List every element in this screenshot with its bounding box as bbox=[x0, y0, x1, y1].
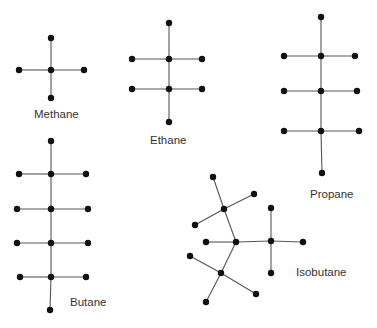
bond bbox=[224, 209, 236, 242]
carbon-atom bbox=[218, 270, 224, 276]
hydrogen-atom bbox=[356, 128, 362, 134]
bond bbox=[321, 131, 322, 173]
hydrogen-atom bbox=[16, 171, 22, 177]
hydrogen-atom bbox=[319, 170, 325, 176]
hydrogen-atom bbox=[17, 274, 23, 280]
hydrogen-atom bbox=[354, 88, 360, 94]
hydrogen-atom bbox=[85, 206, 91, 212]
hydrogen-atom bbox=[166, 119, 172, 125]
hydrogen-atom bbox=[129, 86, 135, 92]
bond bbox=[271, 241, 303, 242]
carbon-atom bbox=[221, 206, 227, 212]
hydrogen-atom bbox=[281, 128, 287, 134]
hydrogen-atom bbox=[187, 253, 193, 259]
hydrogen-atom bbox=[81, 67, 87, 73]
isobutane-molecule bbox=[187, 174, 306, 305]
hydrogen-atom bbox=[199, 86, 205, 92]
carbon-atom bbox=[318, 128, 324, 134]
hydrogen-atom bbox=[14, 206, 20, 212]
bond bbox=[206, 273, 221, 302]
bond bbox=[190, 256, 221, 273]
bond bbox=[221, 273, 256, 294]
hydrogen-atom bbox=[83, 274, 89, 280]
hydrogen-atom bbox=[251, 191, 257, 197]
hydrogen-atom bbox=[83, 171, 89, 177]
carbon-atom bbox=[48, 274, 54, 280]
bond bbox=[195, 209, 224, 225]
methane-molecule bbox=[16, 35, 87, 101]
bond bbox=[213, 177, 224, 209]
ethane-label: Ethane bbox=[150, 134, 186, 146]
hydrogen-atom bbox=[14, 240, 20, 246]
hydrogen-atom bbox=[199, 56, 205, 62]
hydrogen-atom bbox=[300, 239, 306, 245]
propane-label: Propane bbox=[310, 188, 353, 200]
butane-molecule bbox=[14, 138, 91, 313]
methane-label: Methane bbox=[34, 108, 79, 120]
hydrogen-atom bbox=[281, 88, 287, 94]
hydrogen-atom bbox=[268, 205, 274, 211]
ethane-molecule bbox=[129, 20, 205, 125]
hydrogen-atom bbox=[318, 14, 324, 20]
carbon-atom bbox=[166, 86, 172, 92]
hydrogen-atom bbox=[253, 291, 259, 297]
carbon-atom bbox=[318, 53, 324, 59]
carbon-atom bbox=[48, 67, 54, 73]
carbon-atom bbox=[48, 206, 54, 212]
hydrogen-atom bbox=[166, 20, 172, 26]
hydrogen-atom bbox=[203, 239, 209, 245]
carbon-atom bbox=[233, 239, 239, 245]
propane-molecule bbox=[281, 14, 362, 176]
hydrogen-atom bbox=[48, 95, 54, 101]
hydrogen-atom bbox=[210, 174, 216, 180]
hydrogen-atom bbox=[203, 299, 209, 305]
hydrogen-atom bbox=[268, 270, 274, 276]
carbon-atom bbox=[48, 240, 54, 246]
isobutane-label: Isobutane bbox=[296, 266, 347, 278]
hydrogen-atom bbox=[281, 53, 287, 59]
hydrogen-atom bbox=[85, 240, 91, 246]
molecule-diagram: Methane Ethane Propane Butane Isobutane bbox=[0, 0, 377, 328]
bond bbox=[236, 241, 271, 242]
carbon-atom bbox=[48, 171, 54, 177]
bond bbox=[50, 277, 51, 310]
hydrogen-atom bbox=[352, 53, 358, 59]
hydrogen-atom bbox=[129, 56, 135, 62]
carbon-atom bbox=[318, 88, 324, 94]
hydrogen-atom bbox=[47, 307, 53, 313]
carbon-atom bbox=[268, 238, 274, 244]
hydrogen-atom bbox=[16, 67, 22, 73]
hydrogen-atom bbox=[192, 222, 198, 228]
hydrogen-atom bbox=[48, 35, 54, 41]
bond bbox=[224, 194, 254, 209]
bond bbox=[221, 242, 236, 273]
hydrogen-atom bbox=[48, 138, 54, 144]
carbon-atom bbox=[166, 56, 172, 62]
butane-label: Butane bbox=[70, 296, 106, 308]
